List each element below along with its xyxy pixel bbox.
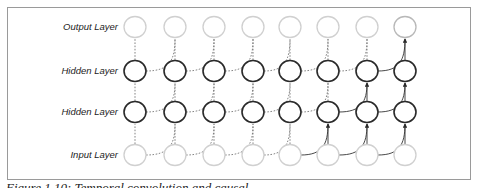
input-node bbox=[242, 145, 264, 166]
output-node bbox=[356, 17, 378, 38]
output-node bbox=[124, 17, 146, 38]
output-node bbox=[164, 17, 186, 38]
hidden2-node bbox=[394, 61, 416, 82]
hidden2-node bbox=[164, 61, 186, 82]
hidden1-node bbox=[242, 102, 264, 123]
hidden1-node bbox=[164, 102, 186, 123]
hidden1-node bbox=[317, 102, 339, 123]
hidden1-node bbox=[124, 102, 146, 123]
hidden2-node bbox=[356, 61, 378, 82]
hidden2-node bbox=[279, 61, 301, 82]
input-node bbox=[394, 145, 416, 166]
input-node bbox=[164, 145, 186, 166]
hidden2-node bbox=[124, 61, 146, 82]
output-node bbox=[242, 17, 264, 38]
input-node bbox=[124, 145, 146, 166]
output-node bbox=[394, 17, 416, 38]
hidden1-node bbox=[356, 102, 378, 123]
hidden2-node bbox=[317, 61, 339, 82]
input-node bbox=[203, 145, 225, 166]
input-node bbox=[317, 145, 339, 166]
hidden1-node bbox=[203, 102, 225, 123]
hidden1-node bbox=[279, 102, 301, 123]
output-node bbox=[317, 17, 339, 38]
network-diagram bbox=[0, 0, 479, 188]
hidden1-node bbox=[394, 102, 416, 123]
hidden2-node bbox=[203, 61, 225, 82]
hidden2-node bbox=[242, 61, 264, 82]
input-node bbox=[356, 145, 378, 166]
figure-caption: Figure 1.10: Temporal convolution and ca… bbox=[6, 181, 261, 188]
output-node bbox=[203, 17, 225, 38]
input-node bbox=[279, 145, 301, 166]
output-node bbox=[279, 17, 301, 38]
